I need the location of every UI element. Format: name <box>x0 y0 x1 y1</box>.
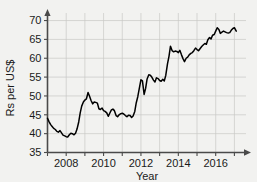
x-tick-label: 2012 <box>129 157 153 169</box>
x-tick-label: 2014 <box>166 157 190 169</box>
line-chart: 354045505560657020082010201220142016 Rs … <box>0 0 257 182</box>
y-tick-label: 35 <box>29 146 41 158</box>
y-tick-label: 55 <box>29 71 41 83</box>
y-tick-label: 45 <box>29 109 41 121</box>
y-tick-label: 60 <box>29 52 41 64</box>
y-tick-label: 40 <box>29 127 41 139</box>
y-axis-title: Rs per US$ <box>4 60 16 117</box>
x-tick-label: 2008 <box>54 157 78 169</box>
y-axis-arrow-icon <box>44 9 50 16</box>
x-axis-arrow-icon <box>244 149 251 155</box>
y-tick-label: 65 <box>29 33 41 45</box>
exchange-rate-line-series <box>48 28 237 137</box>
y-tick-label: 70 <box>29 14 41 26</box>
chart-figure: 354045505560657020082010201220142016 Rs … <box>0 0 257 182</box>
x-axis-title: Year <box>136 170 159 182</box>
y-tick-label: 50 <box>29 90 41 102</box>
axis-tick-labels: 354045505560657020082010201220142016 <box>29 14 228 168</box>
x-tick-label: 2010 <box>91 157 115 169</box>
x-tick-label: 2016 <box>203 157 227 169</box>
